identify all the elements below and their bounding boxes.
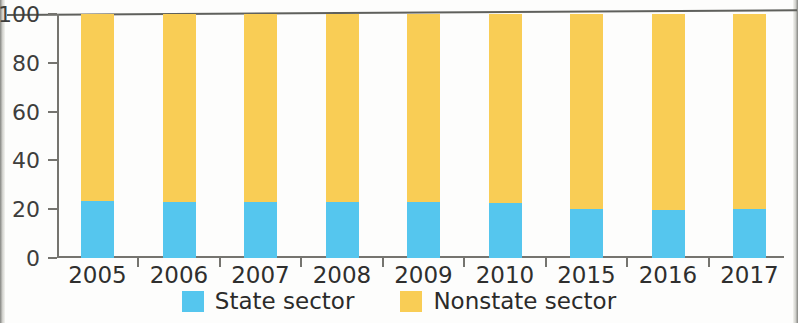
bar-segment-nonstate-sector — [81, 14, 114, 201]
x-axis-label-2017: 2017 — [709, 262, 791, 288]
scan-edge-right — [793, 0, 798, 323]
x-axis-label-2015: 2015 — [546, 262, 628, 288]
legend-label: State sector — [215, 288, 355, 314]
y-tick-label: 60 — [12, 99, 40, 124]
y-tick: 100 — [48, 13, 57, 15]
x-axis-label-2010: 2010 — [464, 262, 546, 288]
bar-segment-state-sector — [733, 209, 766, 258]
bar-segment-state-sector — [652, 210, 685, 258]
x-axis-label-2016: 2016 — [627, 262, 709, 288]
chart-legend: State sectorNonstate sector — [0, 288, 798, 314]
y-tick: 20 — [48, 208, 57, 210]
scan-edge-left — [0, 0, 5, 323]
legend-item-nonstate-sector[interactable]: Nonstate sector — [400, 288, 616, 314]
y-tick-label: 0 — [26, 246, 40, 271]
x-axis-label-2009: 2009 — [383, 262, 465, 288]
y-tick-label: 80 — [12, 50, 40, 75]
bar-segment-nonstate-sector — [244, 14, 277, 202]
x-axis-label-2006: 2006 — [138, 262, 220, 288]
y-axis-line — [57, 14, 59, 258]
legend-swatch-icon — [400, 291, 422, 312]
bar-segment-nonstate-sector — [163, 14, 196, 202]
plot-area: 020406080100 200520062007200820092010201… — [57, 14, 784, 258]
bar-segment-nonstate-sector — [489, 14, 522, 203]
legend-label: Nonstate sector — [433, 288, 616, 314]
x-axis-label-2008: 2008 — [301, 262, 383, 288]
bar-segment-state-sector — [81, 201, 114, 258]
y-tick-label: 40 — [12, 148, 40, 173]
y-tick: 40 — [48, 159, 57, 161]
x-axis-label-2007: 2007 — [220, 262, 302, 288]
bar-segment-state-sector — [326, 202, 359, 258]
bar-segment-state-sector — [407, 202, 440, 258]
y-tick-label: 20 — [12, 197, 40, 222]
bar-segment-nonstate-sector — [570, 14, 603, 209]
bar-segment-nonstate-sector — [326, 14, 359, 202]
y-tick: 60 — [48, 111, 57, 113]
chart-figure: 020406080100 200520062007200820092010201… — [0, 0, 798, 323]
bar-segment-nonstate-sector — [407, 14, 440, 202]
bar-segment-state-sector — [489, 203, 522, 258]
x-axis-label-2005: 2005 — [57, 262, 139, 288]
y-tick: 0 — [48, 257, 57, 259]
bar-segment-state-sector — [244, 202, 277, 258]
bar-segment-state-sector — [163, 202, 196, 258]
bar-segment-nonstate-sector — [652, 14, 685, 210]
legend-swatch-icon — [182, 291, 204, 312]
y-tick-label: 100 — [0, 2, 40, 27]
y-tick: 80 — [48, 62, 57, 64]
legend-item-state-sector[interactable]: State sector — [182, 288, 355, 314]
bar-segment-state-sector — [570, 209, 603, 258]
bar-segment-nonstate-sector — [733, 14, 766, 209]
